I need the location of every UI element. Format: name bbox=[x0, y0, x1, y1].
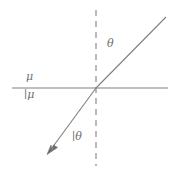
refraction-diagram: μ ∣μ θ ∣θ bbox=[0, 0, 175, 173]
label-medium-lower: ∣μ bbox=[24, 89, 34, 100]
label-angle-lower: ∣θ bbox=[72, 131, 82, 142]
ray-arrowhead-icon bbox=[47, 145, 58, 155]
upper-ray-line bbox=[96, 17, 166, 88]
diagram-canvas bbox=[0, 0, 175, 173]
label-angle-upper: θ bbox=[107, 38, 114, 49]
label-medium-upper: μ bbox=[26, 71, 33, 82]
